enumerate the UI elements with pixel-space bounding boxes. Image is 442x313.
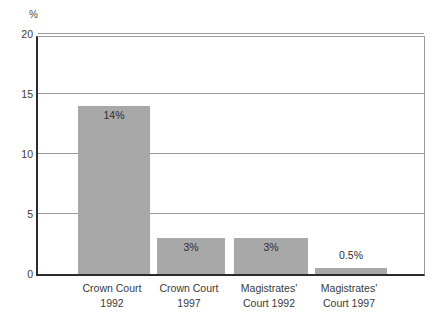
bar-value-label: 3% — [157, 242, 225, 253]
bar-group[interactable]: 14% — [78, 37, 150, 274]
plot-area: 05101520 14%3%3%0.5% — [36, 36, 425, 276]
bar-chart: % 05101520 14%3%3%0.5% Crown Court1992Cr… — [0, 0, 442, 313]
x-axis-category-line2: Court 1997 — [301, 296, 397, 311]
bar-value-label: 3% — [234, 242, 308, 253]
y-axis-tick-label: 20 — [0, 29, 33, 40]
y-axis-unit-label: % — [29, 9, 38, 21]
x-axis-category-line1: Magistrates' — [301, 281, 397, 296]
bar-group[interactable]: 3% — [234, 37, 308, 274]
bar-value-label: 14% — [78, 110, 150, 121]
bar-group[interactable]: 3% — [157, 37, 225, 274]
bars-layer: 14%3%3%0.5% — [38, 37, 424, 274]
bar[interactable] — [315, 268, 387, 274]
bar-value-label: 0.5% — [315, 250, 387, 261]
y-axis-tick-label: 0 — [0, 269, 33, 280]
x-axis-labels: Crown Court1992Crown Court1997Magistrate… — [36, 281, 425, 313]
x-axis-category-label: Magistrates'Court 1997 — [301, 281, 397, 311]
y-axis-tick-label: 5 — [0, 209, 33, 220]
gridline — [38, 33, 424, 34]
bar[interactable] — [78, 106, 150, 274]
y-axis-tick-label: 15 — [0, 89, 33, 100]
y-axis-tick-label: 10 — [0, 149, 33, 160]
bar-group[interactable]: 0.5% — [315, 37, 387, 274]
